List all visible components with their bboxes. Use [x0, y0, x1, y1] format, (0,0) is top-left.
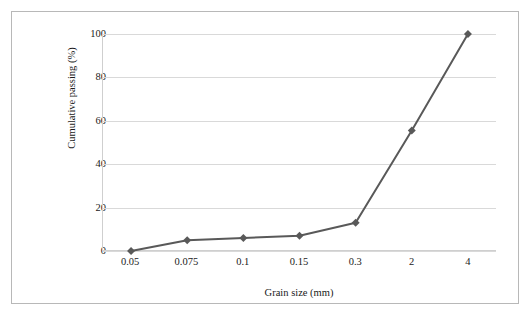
- y-tick-label-60: 60: [72, 116, 106, 126]
- x-tick-label-3: 0.15: [271, 255, 327, 271]
- data-point-marker-1: [183, 236, 191, 244]
- x-tick-label-6: 4: [440, 255, 496, 271]
- x-tick-label-4: 0.3: [327, 255, 383, 271]
- series-line-cumulative-passing: [103, 34, 496, 251]
- chart-screenshot: Cumulative passing (%) 020406080100 0.05…: [0, 0, 531, 317]
- y-tick-label-80: 80: [72, 72, 106, 82]
- x-axis-title: Grain size (mm): [102, 287, 496, 298]
- x-tick-label-1: 0.075: [158, 255, 214, 271]
- plot-area: [102, 34, 496, 251]
- data-point-marker-0: [127, 247, 135, 255]
- y-tick-label-20: 20: [72, 203, 106, 213]
- gridline-y-0: [103, 251, 496, 252]
- figure-frame: Cumulative passing (%) 020406080100 0.05…: [11, 11, 519, 304]
- y-tick-label-40: 40: [72, 159, 106, 169]
- data-point-marker-3: [296, 232, 304, 240]
- y-tick-label-100: 100: [72, 29, 106, 39]
- x-tick-label-2: 0.1: [215, 255, 271, 271]
- x-tick-label-0: 0.05: [102, 255, 158, 271]
- x-axis-tick-labels: 0.050.0750.10.150.324: [102, 255, 496, 271]
- data-point-marker-2: [239, 234, 247, 242]
- x-tick-label-5: 2: [383, 255, 439, 271]
- data-point-marker-6: [464, 30, 472, 38]
- y-tick-label-0: 0: [72, 246, 106, 256]
- series-path-0: [131, 34, 468, 251]
- y-axis-tick-labels: 020406080100: [64, 12, 106, 305]
